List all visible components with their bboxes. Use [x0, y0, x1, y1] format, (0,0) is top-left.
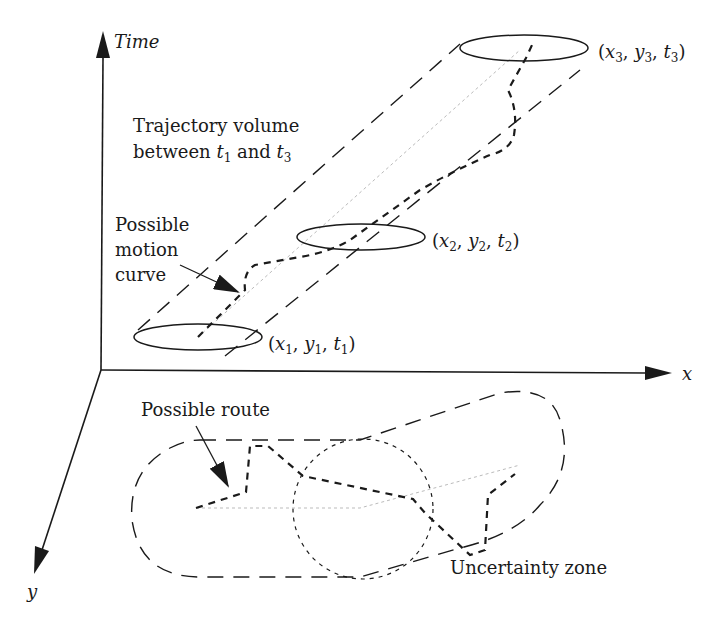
trajectory-diagram: Time x y (x1, y1, t1) (x2, y2, t2) (x3, … — [0, 0, 713, 628]
time-slices — [134, 35, 588, 350]
trajectory-volume-label-line1: Trajectory volume — [133, 115, 299, 136]
volume-edge-lower — [225, 70, 580, 356]
time-axis-arrowhead-icon — [96, 31, 110, 58]
motion-curve-label-line3: curve — [115, 264, 166, 285]
ellipse-t3 — [460, 35, 588, 61]
uncertainty-zone-label: Uncertainty zone — [450, 557, 607, 578]
x-axis — [101, 370, 646, 373]
x-axis-label: x — [682, 363, 692, 384]
time-axis-label: Time — [114, 31, 159, 52]
axes — [34, 31, 672, 574]
y-axis-label: y — [26, 581, 38, 602]
trajectory-volume-label-line2: between t1 and t3 — [133, 141, 291, 165]
trajectory-volume — [138, 44, 580, 356]
volume-center-line — [198, 50, 520, 337]
point-label-2: (x2, y2, t2) — [432, 230, 519, 254]
volume-edge-upper — [138, 44, 460, 330]
route-center-line — [196, 465, 520, 508]
motion-curve — [198, 45, 532, 337]
y-axis-arrowhead-icon — [34, 546, 49, 574]
time-axis — [101, 58, 103, 370]
ellipse-t2 — [297, 224, 425, 250]
possible-route-pointer-arrow-icon — [196, 426, 228, 486]
motion-curve-label-line1: Possible — [115, 214, 189, 235]
motion-curve-pointer-arrow-icon — [180, 265, 238, 292]
possible-route — [196, 446, 515, 555]
point-label-3: (x3, y3, t3) — [598, 41, 685, 65]
y-axis — [42, 370, 101, 550]
uncertainty-circle — [293, 439, 433, 579]
motion-curve-label-line2: motion — [115, 239, 179, 260]
possible-route-label: Possible route — [141, 399, 270, 420]
point-label-1: (x1, y1, t1) — [268, 333, 355, 357]
x-axis-arrowhead-icon — [645, 366, 672, 380]
